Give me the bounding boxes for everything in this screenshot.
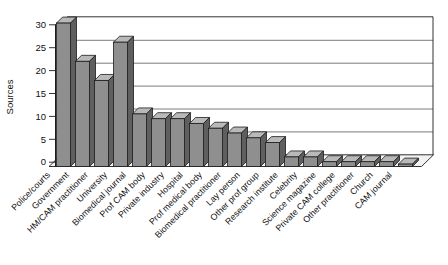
y-tick-label: 30 — [35, 19, 46, 30]
bar-front-face — [171, 119, 185, 167]
bar-front-face — [285, 157, 299, 167]
bar-front-face — [114, 42, 128, 166]
bar-front-face — [190, 123, 204, 166]
y-tick-label: 25 — [35, 42, 46, 53]
bar-front-face — [76, 61, 90, 166]
bar-front-face — [399, 164, 413, 166]
bar-front-face — [361, 162, 375, 167]
y-tick-label: 5 — [41, 134, 46, 145]
y-tick-label: 0 — [41, 156, 46, 167]
bar-chart-3d: Sources 051015202530Police/courtsGovernm… — [0, 0, 448, 265]
bar-front-face — [247, 138, 261, 167]
bar-front-face — [323, 162, 337, 167]
bar-front-face — [380, 162, 394, 167]
y-tick-label: 10 — [35, 111, 46, 122]
bar-front-face — [95, 80, 109, 166]
y-tick-label: 20 — [35, 65, 46, 76]
bar-front-face — [228, 133, 242, 166]
bar-front-face — [57, 23, 71, 166]
bar-front-face — [152, 119, 166, 167]
chart-container: Sources 051015202530Police/courtsGovernm… — [0, 0, 448, 265]
bar-front-face — [304, 157, 318, 167]
y-tick-label: 15 — [35, 88, 46, 99]
bar-front-face — [266, 143, 280, 167]
bar-front-face — [209, 128, 223, 166]
y-axis-title: Sources — [4, 79, 15, 114]
bar-front-face — [133, 114, 147, 167]
bar-front-face — [342, 162, 356, 167]
